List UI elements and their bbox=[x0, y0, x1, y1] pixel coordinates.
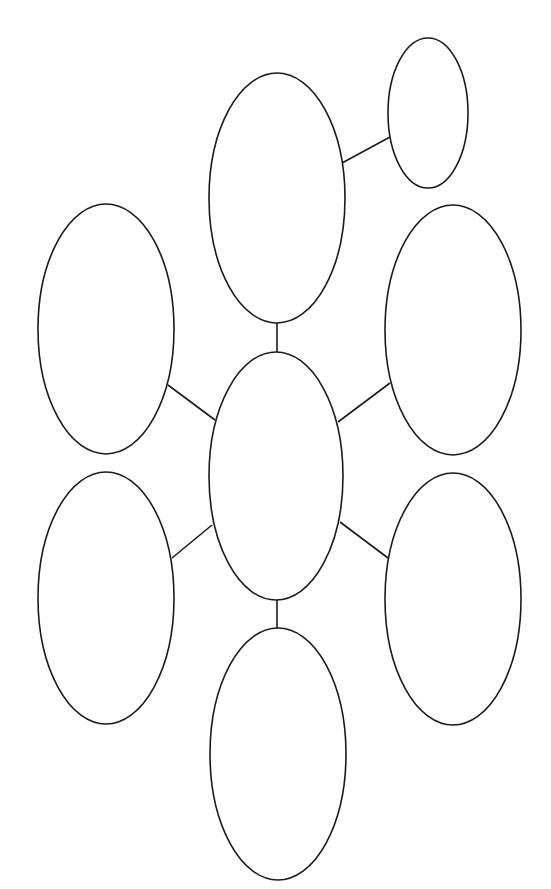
oval-node-top[interactable] bbox=[209, 73, 345, 323]
oval-shape[interactable] bbox=[38, 204, 174, 454]
oval-shape[interactable] bbox=[209, 352, 343, 600]
oval-node-top-sub[interactable] bbox=[388, 38, 468, 188]
concept-nodes bbox=[38, 38, 521, 880]
oval-node-upper-right[interactable] bbox=[385, 205, 521, 455]
connector-center-to-upper-left bbox=[168, 385, 215, 420]
oval-shape[interactable] bbox=[210, 628, 346, 880]
concept-web-diagram bbox=[0, 0, 551, 889]
oval-node-lower-left[interactable] bbox=[38, 472, 174, 724]
connector-center-to-lower-left bbox=[172, 525, 212, 558]
oval-shape[interactable] bbox=[385, 205, 521, 455]
oval-node-lower-right[interactable] bbox=[385, 473, 521, 725]
oval-node-bottom[interactable] bbox=[210, 628, 346, 880]
connector-center-to-lower-right bbox=[340, 522, 388, 558]
oval-shape[interactable] bbox=[385, 473, 521, 725]
oval-shape[interactable] bbox=[38, 472, 174, 724]
oval-shape[interactable] bbox=[388, 38, 468, 188]
connector-top-to-top-sub bbox=[342, 137, 390, 163]
oval-node-upper-left[interactable] bbox=[38, 204, 174, 454]
oval-shape[interactable] bbox=[209, 73, 345, 323]
oval-node-center[interactable] bbox=[209, 352, 343, 600]
connector-center-to-upper-right bbox=[338, 383, 390, 422]
